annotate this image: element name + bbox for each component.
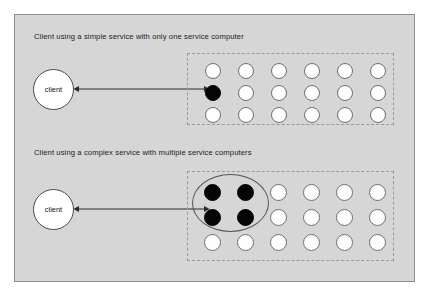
client-node-label: client [45,85,62,94]
service-node-idle [337,85,353,101]
service-node-idle [271,63,287,79]
service-node-idle [270,209,287,226]
service-node-idle [336,234,353,251]
service-node-grid-complex [196,180,394,255]
client-node-label: client [45,205,62,214]
panel-simple-service: Client using a simple service with only … [15,15,414,139]
service-node-idle [370,85,386,101]
service-node-idle [303,209,320,226]
service-node-idle [270,184,287,201]
service-node-idle [304,107,320,123]
service-boundary-complex [187,171,394,261]
service-node-active [237,209,254,226]
panel-complex-caption: Client using a complex service with mult… [34,148,252,157]
service-node-idle [238,63,254,79]
service-node-idle [271,85,287,101]
service-node-idle [238,85,254,101]
client-node-simple: client [33,69,74,110]
service-node-active [237,184,254,201]
service-node-idle [303,184,320,201]
service-node-idle [337,107,353,123]
panel-complex-service: Client using a complex service with mult… [15,139,414,283]
service-node-idle [304,85,320,101]
service-node-idle [369,234,386,251]
service-node-idle [370,63,386,79]
service-node-idle [369,184,386,201]
service-node-idle [336,209,353,226]
service-node-active [204,184,221,201]
service-node-idle [205,63,221,79]
service-node-active [204,209,221,226]
service-node-idle [205,107,221,123]
service-node-active [205,85,221,101]
service-node-idle [369,209,386,226]
service-boundary-simple [187,53,394,125]
service-node-idle [336,184,353,201]
service-node-idle [238,107,254,123]
service-node-idle [304,63,320,79]
service-node-idle [271,107,287,123]
service-node-idle [370,107,386,123]
service-node-idle [337,63,353,79]
diagram-frame: Client using a simple service with only … [14,14,415,282]
panel-simple-caption: Client using a simple service with only … [34,32,244,41]
client-node-complex: client [33,189,74,230]
service-node-grid-simple [196,60,394,126]
service-node-idle [204,234,221,251]
service-node-idle [237,234,254,251]
service-node-idle [303,234,320,251]
service-node-idle [270,234,287,251]
